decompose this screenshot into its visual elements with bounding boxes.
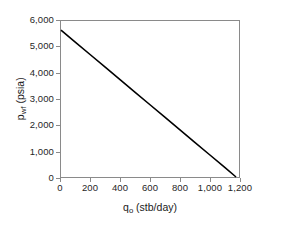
x-tick-label: 600 <box>142 183 158 193</box>
y-tick-label: 3,000 <box>30 94 54 104</box>
x-tick-label: 800 <box>172 183 188 193</box>
y-tick-label: 4,000 <box>30 68 54 78</box>
x-tick-label: 1,000 <box>198 183 222 193</box>
y-axis-title: pwf (psia) <box>15 20 28 178</box>
x-axis-tick-labels: 02004006008001,0001,200 <box>60 183 240 197</box>
x-axis-title: qo (stb/day) <box>60 202 240 215</box>
x-tick-label: 200 <box>82 183 98 193</box>
plot-area <box>60 20 240 178</box>
y-axis-title-subscript: wf <box>19 107 28 115</box>
y-axis-title-base: p <box>14 114 26 120</box>
x-axis-title-unit: (stb/day) <box>133 201 177 213</box>
y-axis-title-unit: (psia) <box>14 77 26 106</box>
x-tick-label: 0 <box>57 183 62 193</box>
y-tick-label: 2,000 <box>30 121 54 131</box>
y-tick-label: 5,000 <box>30 42 54 52</box>
y-tick-label: 1,000 <box>30 147 54 157</box>
data-line-svg <box>61 21 239 177</box>
y-tick-label: 6,000 <box>30 15 54 25</box>
y-tick-label: 0 <box>49 173 54 183</box>
x-tick-label: 400 <box>112 183 128 193</box>
chart-figure: 01,0002,0003,0004,0005,0006,000 pwf (psi… <box>0 0 284 228</box>
series-line-ipr <box>61 30 236 177</box>
x-tick-label: 1,200 <box>228 183 252 193</box>
